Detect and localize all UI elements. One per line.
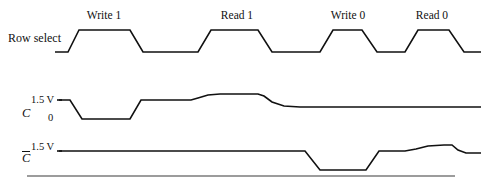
c-low-level-label: 0 bbox=[48, 113, 53, 124]
waveform-row-select bbox=[55, 30, 481, 52]
c-bar-high-level-label: 1.5 V bbox=[31, 142, 54, 153]
timing-waveform-canvas bbox=[0, 0, 482, 191]
c-high-level-label: 1.5 V bbox=[31, 95, 54, 106]
c-bar-signal-label: C bbox=[22, 151, 30, 165]
waveform-c bbox=[59, 94, 481, 119]
phase-label-write-0: Write 0 bbox=[331, 10, 365, 22]
phase-label-write-1: Write 1 bbox=[87, 10, 121, 22]
phase-label-read-0: Read 0 bbox=[416, 10, 448, 22]
phase-label-read-1: Read 1 bbox=[221, 10, 253, 22]
c-signal-label: C bbox=[22, 107, 30, 120]
waveform-cbar bbox=[59, 145, 481, 170]
waveform-group bbox=[55, 30, 481, 170]
timing-diagram-figure: Write 1Read 1Write 0Read 0 Row select C … bbox=[0, 0, 482, 191]
row-select-signal-label: Row select bbox=[8, 32, 61, 44]
c-bar-overbar-text: C bbox=[22, 151, 30, 165]
